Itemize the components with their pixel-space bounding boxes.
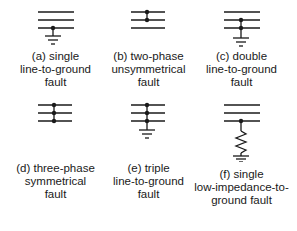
double-line-to-ground-fault-icon (212, 6, 272, 50)
caption-d: (d) three-phase symmetrical fault (6, 162, 105, 201)
panel-b-two-phase-unsymmetrical: (b) two-phase unsymmetrical fault (99, 6, 198, 89)
caption-c: (c) double line-to-ground fault (192, 50, 291, 89)
caption-b: (b) two-phase unsymmetrical fault (99, 50, 198, 89)
caption-line: unsymmetrical (99, 63, 198, 76)
triple-line-to-ground-fault-icon (119, 100, 179, 162)
panel-a-single-line-to-ground: (a) single line-to-ground fault (6, 6, 105, 89)
caption-line: symmetrical (6, 175, 105, 188)
caption-line: fault (6, 76, 105, 89)
caption-line: (c) double (192, 50, 291, 63)
caption-line: line-to-ground (192, 63, 291, 76)
panel-c-double-line-to-ground: (c) double line-to-ground fault (192, 6, 291, 89)
panel-e-triple-line-to-ground: (e) triple line-to-ground fault (99, 100, 198, 201)
caption-line: (a) single (6, 50, 105, 63)
caption-f: (f) single low-impedance-to- ground faul… (192, 168, 291, 207)
caption-line: fault (99, 188, 198, 201)
caption-line: line-to-ground (99, 175, 198, 188)
caption-line: ground fault (192, 194, 291, 207)
single-line-to-ground-fault-icon (26, 6, 86, 50)
caption-a: (a) single line-to-ground fault (6, 50, 105, 89)
caption-line: low-impedance-to- (192, 181, 291, 194)
caption-line: (b) two-phase (99, 50, 198, 63)
caption-line: fault (192, 76, 291, 89)
caption-e: (e) triple line-to-ground fault (99, 162, 198, 201)
three-phase-fault-icon (26, 100, 86, 162)
low-impedance-ground-fault-icon (212, 100, 272, 162)
caption-line: (e) triple (99, 162, 198, 175)
panel-d-three-phase-symmetrical: (d) three-phase symmetrical fault (6, 100, 105, 201)
caption-line: fault (6, 188, 105, 201)
panel-f-single-low-impedance-to-ground: (f) single low-impedance-to- ground faul… (192, 100, 291, 207)
caption-line: (f) single (192, 168, 291, 181)
caption-line: (d) three-phase (6, 162, 105, 175)
caption-line: fault (99, 76, 198, 89)
two-phase-fault-icon (119, 6, 179, 50)
caption-line: line-to-ground (6, 63, 105, 76)
